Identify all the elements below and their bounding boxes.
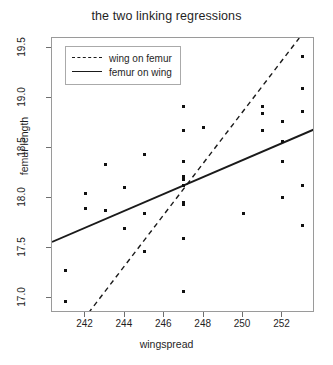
x-axis-label: wingspread [0,338,333,350]
data-point [64,300,67,303]
data-point [182,105,185,108]
legend-item-femur-on-wing: femur on wing [72,65,172,79]
x-tick-label: 242 [64,318,104,329]
y-tick-label: 18.0 [0,190,44,204]
data-point [64,269,67,272]
y-tick-label: 17.5 [0,240,44,254]
data-point [123,227,126,230]
legend-label: wing on femur [109,53,172,64]
data-point [143,153,146,156]
data-point [301,224,304,227]
legend-item-wing-on-femur: wing on femur [72,51,172,65]
data-point [281,160,284,163]
data-point [143,250,146,253]
x-tick-mark [163,312,164,317]
y-tick-label: 18.5 [0,140,44,154]
x-tick-mark [84,312,85,317]
plot-area: wing on femur femur on wing [51,37,314,312]
data-point [84,192,87,195]
data-point [301,110,304,113]
y-tick-label: 19.0 [0,90,44,104]
data-point [182,290,185,293]
data-point [84,207,87,210]
dashed-line-swatch-icon [72,53,102,63]
data-point [261,105,264,108]
legend-label: femur on wing [109,67,172,78]
x-tick-label: 246 [143,318,183,329]
x-tick-label: 248 [183,318,223,329]
x-tick-label: 252 [261,318,301,329]
x-tick-mark [242,312,243,317]
chart-figure: the two linking regressions femur length… [0,0,333,365]
data-point [182,178,185,181]
data-point [242,212,245,215]
data-point [202,126,205,129]
data-point [261,129,264,132]
y-tick-label: 19.5 [0,40,44,54]
data-point [281,120,284,123]
data-point [182,129,185,132]
x-tick-mark [203,312,204,317]
data-point [281,140,284,143]
data-point [261,112,264,115]
x-tick-mark [124,312,125,317]
solid-line-swatch-icon [72,67,102,77]
data-point [123,186,126,189]
data-point [182,160,185,163]
x-tick-mark [281,312,282,317]
data-point [143,212,146,215]
data-point [104,209,107,212]
y-tick-label: 17.0 [0,290,44,304]
data-point [182,184,185,187]
data-point [301,184,304,187]
x-tick-label: 244 [104,318,144,329]
data-point [301,55,304,58]
data-point [182,203,185,206]
chart-title: the two linking regressions [0,9,333,23]
data-point [182,237,185,240]
chart-legend: wing on femur femur on wing [65,46,181,85]
data-point [281,196,284,199]
data-point [301,87,304,90]
x-tick-label: 250 [222,318,262,329]
data-point [104,163,107,166]
